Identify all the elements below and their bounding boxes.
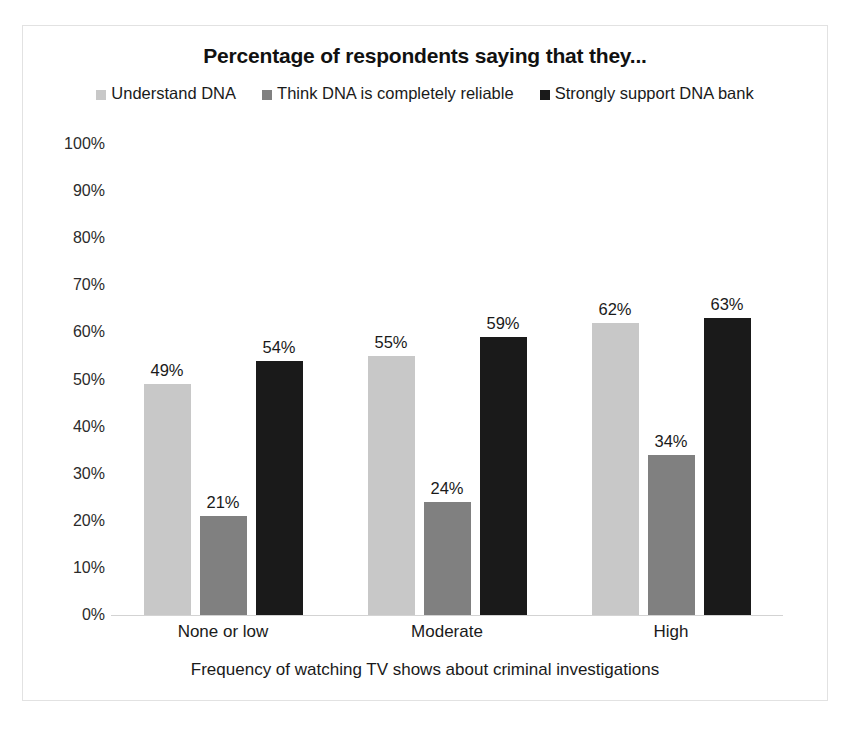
legend-label: Strongly support DNA bank [555, 84, 754, 103]
bar-column: 59% [480, 144, 527, 615]
bar-column: 62% [592, 144, 639, 615]
legend-item-strongly-support-dna-bank[interactable]: Strongly support DNA bank [540, 84, 754, 103]
y-axis-tick-label: 20% [47, 512, 105, 530]
bar-value-label: 21% [206, 493, 239, 512]
bar-value-label: 49% [150, 361, 183, 380]
y-axis-tick-label: 40% [47, 418, 105, 436]
y-axis-tick-label: 100% [47, 135, 105, 153]
x-axis-category-label: High [654, 622, 689, 642]
y-axis-tick-labels: 100%90%80%70%60%50%40%30%20%10%0% [35, 144, 105, 615]
bar-value-label: 55% [374, 333, 407, 352]
y-axis-tick-label: 50% [47, 371, 105, 389]
bar-value-label: 62% [598, 300, 631, 319]
bar[interactable] [144, 384, 191, 615]
x-axis-category-label: None or low [178, 622, 269, 642]
x-axis-category-label: Moderate [411, 622, 483, 642]
bar-group: 49%21%54% [111, 144, 335, 615]
legend-swatch-icon [96, 90, 106, 100]
bar[interactable] [648, 455, 695, 615]
y-axis-tick-label: 60% [47, 323, 105, 341]
x-axis-title: Frequency of watching TV shows about cri… [23, 660, 827, 680]
x-axis-line [111, 615, 783, 616]
y-axis-tick-label: 90% [47, 182, 105, 200]
legend-label: Think DNA is completely reliable [277, 84, 514, 103]
bar-value-label: 34% [654, 432, 687, 451]
legend-item-think-dna-reliable[interactable]: Think DNA is completely reliable [262, 84, 514, 103]
bar-group: 55%24%59% [335, 144, 559, 615]
legend-swatch-icon [540, 90, 550, 100]
bar-group: 62%34%63% [559, 144, 783, 615]
x-axis-category-labels: None or lowModerateHigh [111, 622, 783, 652]
bar[interactable] [704, 318, 751, 615]
bar-column: 55% [368, 144, 415, 615]
bar[interactable] [200, 516, 247, 615]
bar-column: 34% [648, 144, 695, 615]
y-axis-tick-label: 30% [47, 465, 105, 483]
bar-column: 24% [424, 144, 471, 615]
bar-value-label: 54% [262, 338, 295, 357]
bar[interactable] [424, 502, 471, 615]
bar-column: 63% [704, 144, 751, 615]
bar-value-label: 24% [430, 479, 463, 498]
legend-swatch-icon [262, 90, 272, 100]
bar[interactable] [368, 356, 415, 615]
chart-legend: Understand DNA Think DNA is completely r… [23, 84, 827, 103]
bar[interactable] [480, 337, 527, 615]
bar[interactable] [592, 323, 639, 615]
bar[interactable] [256, 361, 303, 615]
bar-column: 54% [256, 144, 303, 615]
y-axis-tick-label: 80% [47, 229, 105, 247]
bar-column: 49% [144, 144, 191, 615]
y-axis-tick-label: 0% [47, 606, 105, 624]
chart-title: Percentage of respondents saying that th… [23, 44, 827, 68]
bar-value-label: 63% [710, 295, 743, 314]
y-axis-tick-label: 10% [47, 559, 105, 577]
legend-label: Understand DNA [111, 84, 236, 103]
legend-item-understand-dna[interactable]: Understand DNA [96, 84, 236, 103]
plot-area: 49%21%54%55%24%59%62%34%63% [111, 144, 783, 615]
chart-figure: Percentage of respondents saying that th… [22, 25, 828, 701]
y-axis-tick-label: 70% [47, 276, 105, 294]
bar-value-label: 59% [486, 314, 519, 333]
bar-column: 21% [200, 144, 247, 615]
